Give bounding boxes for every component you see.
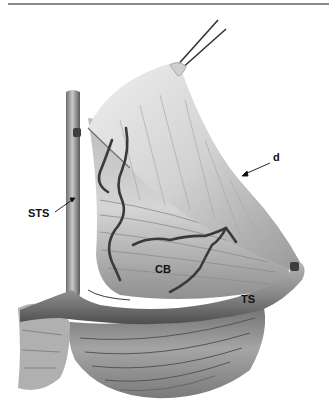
vertical-sinus xyxy=(66,90,81,300)
label-d: d xyxy=(273,152,280,163)
forceps-icon xyxy=(175,20,226,70)
label-ts: TS xyxy=(241,294,255,305)
label-sts: STS xyxy=(28,208,49,219)
label-cb: CB xyxy=(155,264,171,275)
